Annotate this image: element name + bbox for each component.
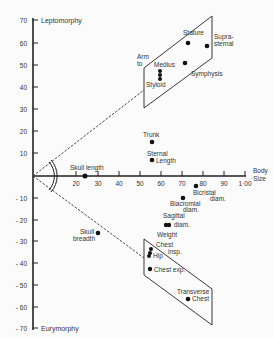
y-tick-label: 10 — [20, 150, 28, 157]
point-skull-length — [83, 174, 88, 179]
label-to: to — [137, 60, 143, 67]
y-tick-label: 70 — [20, 17, 28, 24]
label-transverse: Transverse — [177, 288, 210, 295]
y-top-label: Leptomorphy — [41, 17, 82, 25]
point-chest-exp — [148, 267, 152, 271]
x-tick-label: 1·00 — [238, 180, 251, 187]
point-sagittal-2 — [167, 223, 171, 227]
x-tick-label: 60 — [157, 180, 165, 187]
x-tick-label: 30 — [94, 180, 102, 187]
point-hip-2 — [147, 254, 151, 258]
label-sternal: Sternal — [147, 150, 168, 157]
x-tick-label: 70 — [178, 180, 186, 187]
point-suprasternal — [205, 44, 210, 49]
y-tick-label: 30 — [20, 106, 28, 113]
point-chest-insp — [149, 247, 153, 251]
label-supra2: sternal — [214, 40, 234, 47]
point-symphysis — [183, 61, 188, 66]
y-tick-label: 20 — [20, 128, 28, 135]
point-skull-breadth — [96, 231, 101, 236]
point-trunk — [150, 140, 155, 145]
y-tick-label: 60 — [20, 40, 28, 47]
y-tick-label: - 10 — [16, 195, 28, 202]
y-tick-label: 50 — [20, 62, 28, 69]
x-axis-label: Body — [253, 167, 269, 175]
y-bottom-label: Eurymorphy — [41, 325, 79, 333]
lower-ray — [33, 176, 144, 258]
label-trunk: Trunk — [143, 131, 160, 138]
data-points — [83, 41, 210, 302]
label-breadth: breadth — [73, 235, 95, 242]
label-chest: Chest — [156, 241, 173, 248]
label-insp: insp. — [168, 248, 182, 256]
point-arm-to — [158, 73, 162, 77]
chart-canvas: 70605040302010- 10- 20- 30- 40- 50- 60- … — [0, 0, 274, 338]
label-arm: Arm — [137, 53, 149, 60]
y-tick-label: - 70 — [16, 325, 28, 332]
y-tick-label: - 40 — [16, 260, 28, 267]
x-tick-label: 90 — [220, 180, 228, 187]
point-stature — [186, 41, 191, 46]
label-weight: Weight — [157, 231, 177, 239]
y-tick-label: - 60 — [16, 304, 28, 311]
point-labels: Arm to Medius Styloid Stature Supra- ste… — [70, 29, 234, 302]
label-styloid: Styloid — [146, 81, 166, 89]
label-skull: Skull — [80, 228, 95, 235]
point-bicristal — [194, 184, 199, 189]
label-symphysis: Symphysis — [191, 70, 223, 78]
label-length: Length — [156, 157, 176, 165]
point-medius — [158, 69, 162, 73]
x-tick-label: 20 — [72, 180, 80, 187]
label-biacromial-diam: diam. — [183, 206, 199, 213]
label-stature: Stature — [183, 29, 204, 36]
label-chest-exp: Chest exp. — [154, 266, 185, 274]
y-tick-label: 40 — [20, 84, 28, 91]
label-transverse-chest: Chest — [192, 295, 209, 302]
point-sternal-length — [150, 158, 155, 163]
y-tick-label: - 30 — [16, 238, 28, 245]
label-sagittal: Sagittal — [163, 212, 185, 220]
y-tick-label: - 50 — [16, 282, 28, 289]
x-tick-label: 80 — [199, 180, 207, 187]
label-hip: Hip — [153, 252, 163, 260]
point-transverse-chest — [186, 297, 191, 302]
label-bicristal-diam: diam. — [210, 195, 226, 202]
x-tick-label: 50 — [136, 180, 144, 187]
x-ticks: 20304050607080901·00 — [72, 171, 252, 187]
y-tick-label: - 20 — [16, 217, 28, 224]
x-axis-label-2: ·Size — [251, 175, 266, 182]
label-sagittal-diam: diam. — [174, 221, 190, 228]
y-ticks: 70605040302010- 10- 20- 30- 40- 50- 60- … — [16, 17, 38, 332]
x-tick-label: 40 — [115, 180, 123, 187]
label-skull-length: Skull length — [70, 164, 104, 172]
label-medius: Medius — [154, 61, 176, 68]
